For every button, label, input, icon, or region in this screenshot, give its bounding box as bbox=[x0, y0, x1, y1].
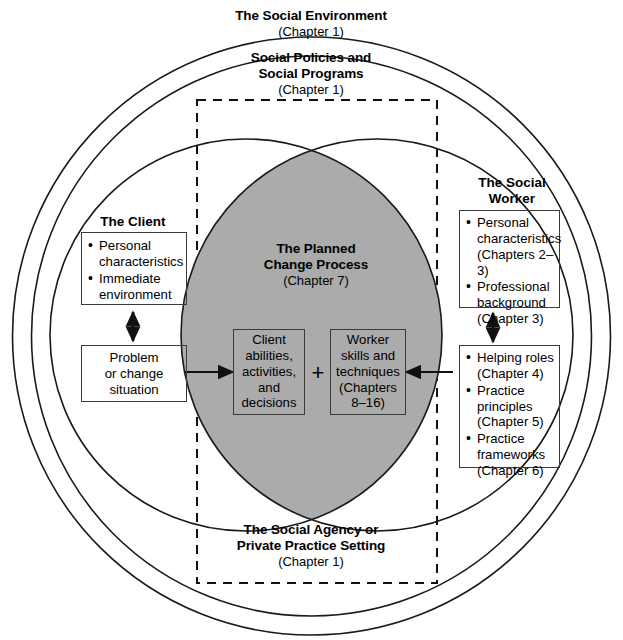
planned-change-worker-box: Worker skills and techniques (Chapters 8… bbox=[330, 329, 406, 415]
worker-attribute-item: Personal characteristics (Chapters 2–3) bbox=[477, 215, 555, 278]
worker-practice-1-line2: principles bbox=[477, 399, 533, 414]
social-environment-title: The Social Environment bbox=[161, 8, 461, 24]
client-attribute-item: Personal characteristics bbox=[99, 238, 182, 270]
planned-change-chapter: (Chapter 7) bbox=[221, 273, 411, 288]
worker-practice-item: Helping roles (Chapter 4) bbox=[477, 350, 555, 382]
client-attribute-item: Immediate environment bbox=[99, 271, 182, 303]
client-attribute-0-line1: Personal bbox=[99, 238, 151, 253]
diagram-canvas: The Social Environment (Chapter 1) Socia… bbox=[0, 0, 623, 640]
worker-attribute-item: Professional background (Chapter 3) bbox=[477, 279, 555, 327]
client-problem-box: Problem or change situation bbox=[81, 345, 187, 402]
worker-practice-2-line3: (Chapter 6) bbox=[477, 463, 544, 478]
problem-box-line3: situation bbox=[82, 382, 186, 398]
worker-practice-1-line3: (Chapter 5) bbox=[477, 414, 544, 429]
social-worker-group-title: The Social Worker bbox=[452, 175, 572, 207]
pc-worker-line5: 8–16) bbox=[331, 395, 405, 411]
social-environment-label: The Social Environment (Chapter 1) bbox=[161, 8, 461, 39]
social-policies-title-line1: Social Policies and bbox=[176, 50, 446, 66]
pc-client-line3: activities, bbox=[234, 364, 304, 380]
pc-worker-line1: Worker bbox=[331, 332, 405, 348]
social-agency-chapter: (Chapter 1) bbox=[176, 554, 446, 569]
worker-practice-item: Practice frameworks (Chapter 6) bbox=[477, 431, 555, 479]
social-agency-title-line2: Private Practice Setting bbox=[176, 538, 446, 554]
worker-practice-0-line2: (Chapter 4) bbox=[477, 366, 544, 381]
pc-client-line4: and bbox=[234, 380, 304, 396]
pc-worker-line3: techniques bbox=[331, 364, 405, 380]
plus-operator-text: + bbox=[312, 360, 325, 385]
client-group-title-text: The Client bbox=[100, 214, 165, 229]
planned-change-title-line1: The Planned bbox=[221, 241, 411, 257]
worker-attribute-0-line2: characteristics bbox=[477, 231, 561, 246]
social-policies-chapter: (Chapter 1) bbox=[176, 82, 446, 97]
social-environment-chapter: (Chapter 1) bbox=[161, 24, 461, 39]
worker-attribute-1-line3: (Chapter 3) bbox=[477, 311, 544, 326]
client-attribute-1-line2: environment bbox=[99, 287, 172, 302]
pc-worker-line4: (Chapters bbox=[331, 380, 405, 396]
worker-practice-2-line1: Practice bbox=[477, 431, 525, 446]
client-attribute-0-line2: characteristics bbox=[99, 254, 183, 269]
worker-practice-0-line1: Helping roles bbox=[477, 350, 554, 365]
social-policies-label: Social Policies and Social Programs (Cha… bbox=[176, 50, 446, 97]
problem-box-line1: Problem bbox=[82, 350, 186, 366]
worker-practice-1-line1: Practice bbox=[477, 383, 525, 398]
worker-attribute-1-line1: Professional bbox=[477, 279, 550, 294]
worker-attribute-0-line1: Personal bbox=[477, 215, 529, 230]
client-group-title: The Client bbox=[73, 214, 193, 230]
worker-practice-2-line2: frameworks bbox=[477, 447, 545, 462]
planned-change-client-box: Client abilities, activities, and decisi… bbox=[233, 329, 305, 415]
worker-practice-item: Practice principles (Chapter 5) bbox=[477, 383, 555, 431]
planned-change-label: The Planned Change Process (Chapter 7) bbox=[221, 241, 411, 288]
client-attribute-1-line1: Immediate bbox=[99, 271, 161, 286]
plus-operator: + bbox=[309, 362, 327, 384]
pc-client-line2: abilities, bbox=[234, 348, 304, 364]
problem-box-line2: or change bbox=[82, 366, 186, 382]
social-worker-title-line2: Worker bbox=[489, 191, 535, 206]
social-worker-title-line1: The Social bbox=[478, 175, 546, 190]
worker-attribute-1-line2: background bbox=[477, 295, 546, 310]
pc-worker-line2: skills and bbox=[331, 348, 405, 364]
social-policies-title-line2: Social Programs bbox=[176, 66, 446, 82]
social-worker-practice-box: Helping roles (Chapter 4) Practice princ… bbox=[459, 345, 560, 468]
social-worker-attributes-box: Personal characteristics (Chapters 2–3) … bbox=[459, 210, 560, 308]
worker-attribute-0-line3: (Chapters 2–3) bbox=[477, 247, 553, 278]
planned-change-title-line2: Change Process bbox=[221, 257, 411, 273]
pc-client-line1: Client bbox=[234, 332, 304, 348]
social-agency-title-line1: The Social Agency or bbox=[176, 522, 446, 538]
client-attributes-box: Personal characteristics Immediate envir… bbox=[81, 232, 187, 305]
pc-client-line5: decisions bbox=[234, 395, 304, 411]
social-agency-label: The Social Agency or Private Practice Se… bbox=[176, 522, 446, 569]
